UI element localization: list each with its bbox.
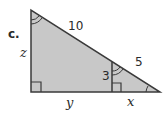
base-right-label: x: [127, 95, 134, 108]
part-label: c.: [8, 28, 20, 40]
hypotenuse-label: 10: [68, 20, 83, 32]
base-left-label: y: [66, 96, 73, 109]
lower-hypotenuse-label: 5: [135, 56, 143, 68]
altitude-label: 3: [102, 70, 110, 82]
triangle-shape: [31, 10, 160, 92]
right-triangle-figure: c. 10 3 5 z y x: [0, 0, 166, 115]
left-leg-label: z: [20, 46, 27, 59]
